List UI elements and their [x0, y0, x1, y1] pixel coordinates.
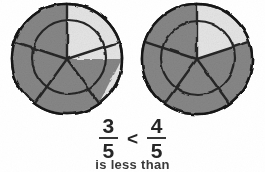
- right-circle-texture: [143, 5, 251, 113]
- right-fraction-circle: [138, 0, 260, 122]
- inequality-expression: 3 5 < 4 5: [0, 117, 265, 159]
- artwork-layer: 3 5 < 4 5 is less than: [0, 0, 265, 172]
- right-fraction-numerator: 4: [149, 115, 165, 136]
- right-fraction: 4 5: [147, 115, 166, 161]
- less-than-symbol: <: [127, 128, 138, 150]
- fraction-comparison-figure: 3 5 < 4 5 is less than: [0, 0, 265, 172]
- left-circle-texture: [13, 5, 121, 113]
- left-fraction-numerator: 3: [101, 115, 117, 136]
- left-fraction: 3 5: [99, 115, 118, 161]
- left-fraction-circle: [8, 0, 130, 122]
- caption-text: is less than: [0, 157, 265, 172]
